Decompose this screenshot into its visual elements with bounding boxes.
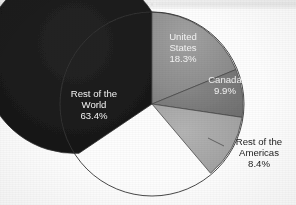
slice-value-united-states: 18.3% bbox=[152, 53, 214, 64]
pie-chart: United States 18.3% Canada 9.9% Rest of … bbox=[0, 0, 296, 205]
slice-label-united-states-line2: States bbox=[169, 42, 196, 53]
slice-label-rest-of-the-americas-line1: Rest of the bbox=[236, 136, 282, 147]
slice-label-rest-of-the-americas: Rest of the Americas 8.4% bbox=[224, 136, 294, 170]
slice-label-united-states-line1: United bbox=[169, 31, 197, 42]
slice-value-rest-of-the-world: 63.4% bbox=[48, 110, 140, 121]
slice-label-united-states: United States 18.3% bbox=[152, 31, 214, 65]
pie-svg bbox=[0, 0, 296, 205]
slice-label-rest-of-the-world-line1: Rest of the bbox=[71, 88, 117, 99]
slice-label-canada-line1: Canada bbox=[208, 74, 242, 85]
slice-value-canada: 9.9% bbox=[196, 85, 254, 96]
slice-label-canada: Canada 9.9% bbox=[196, 74, 254, 96]
slice-value-rest-of-the-americas: 8.4% bbox=[224, 158, 294, 169]
slice-label-rest-of-the-world-line2: World bbox=[82, 99, 107, 110]
chart-figure: Wheat Exports bbox=[0, 0, 296, 205]
pie-slice-rest-of-the-world[interactable] bbox=[0, 0, 152, 153]
slice-label-rest-of-the-americas-line2: Americas bbox=[239, 147, 279, 158]
slice-label-rest-of-the-world: Rest of the World 63.4% bbox=[48, 88, 140, 122]
